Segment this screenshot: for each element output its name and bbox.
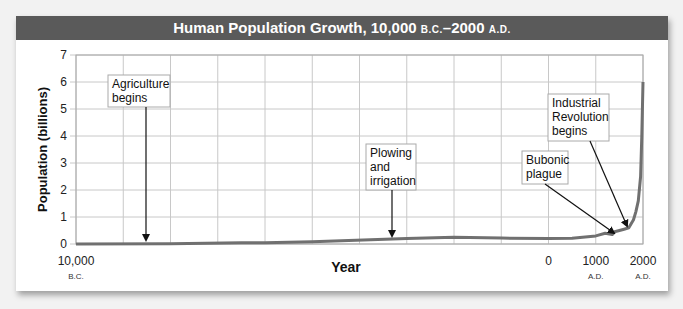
y-tick-label: 7 — [60, 48, 67, 62]
annotation-text: plague — [526, 167, 562, 181]
annotation-arrow — [545, 184, 614, 233]
y-tick-label: 1 — [60, 210, 67, 224]
x-tick-label: 0 — [545, 254, 552, 268]
population-chart: 01234567Population (billions)10,000B.C.0… — [0, 0, 683, 309]
y-tick-label: 0 — [60, 237, 67, 251]
annotation-text: begins — [552, 124, 587, 138]
y-tick-label: 2 — [60, 183, 67, 197]
annotation-text: Agriculture — [112, 77, 170, 91]
x-tick-label: 2000 — [630, 254, 657, 268]
y-axis-label: Population (billions) — [35, 87, 50, 212]
x-tick-label: 1000 — [582, 254, 609, 268]
x-tick-label: 10,000 — [58, 254, 95, 268]
annotation-text: Revolution — [552, 110, 609, 124]
annotation-text: Bubonic — [526, 153, 569, 167]
annotation-text: Industrial — [552, 96, 601, 110]
x-tick-sublabel: B.C. — [68, 272, 84, 281]
annotation-text: and — [370, 160, 390, 174]
y-tick-label: 4 — [60, 129, 67, 143]
annotation-text: Plowing — [370, 146, 412, 160]
annotation-text: irrigation — [370, 174, 416, 188]
annotation-text: begins — [112, 91, 147, 105]
y-tick-label: 5 — [60, 102, 67, 116]
x-tick-sublabel: A.D. — [588, 272, 604, 281]
y-tick-label: 6 — [60, 75, 67, 89]
y-tick-label: 3 — [60, 156, 67, 170]
x-tick-sublabel: A.D. — [635, 272, 651, 281]
x-axis-label: Year — [331, 259, 361, 275]
